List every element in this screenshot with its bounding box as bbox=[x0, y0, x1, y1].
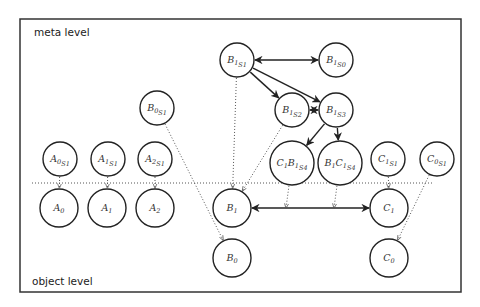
node-A1: A1 bbox=[88, 189, 126, 227]
node-B1S1: B1S1 bbox=[220, 43, 254, 77]
node-C0S1: C0S1 bbox=[420, 142, 454, 176]
node-A0: A0 bbox=[40, 189, 78, 227]
meta-level-label: meta level bbox=[34, 26, 90, 38]
node-A2: A2 bbox=[136, 189, 174, 227]
node-C1: C1 bbox=[370, 189, 408, 227]
nodes: B1S1B1S0B1S2B1S3C1B1S4B1C1S4B0S1A0S1A1S1… bbox=[40, 43, 454, 277]
edge-B0S1-B0 bbox=[165, 124, 223, 240]
edge-C1B1S4-B1C1edge_a bbox=[286, 186, 289, 208]
node-B0S1: B0S1 bbox=[140, 91, 174, 125]
node-C1B1S4: C1B1S4 bbox=[270, 141, 314, 185]
node-A1S1: A1S1 bbox=[91, 142, 125, 176]
edge-B1S1-B1S2 bbox=[250, 72, 278, 98]
node-B1S0: B1S0 bbox=[319, 43, 353, 77]
node-B1S3: B1S3 bbox=[319, 93, 353, 127]
node-B1C1S4: B1C1S4 bbox=[318, 141, 362, 185]
node-B0: B0 bbox=[213, 239, 251, 277]
node-B1: B1 bbox=[213, 189, 251, 227]
edge-B1C1S4-B1C1edge_b bbox=[334, 186, 337, 208]
node-C1S1: C1S1 bbox=[371, 142, 405, 176]
node-B1S2: B1S2 bbox=[275, 93, 309, 127]
edge-B1S3-B1C1S4 bbox=[337, 128, 338, 140]
node-A0S1: A0S1 bbox=[43, 142, 77, 176]
edge-B1S1-B1 bbox=[233, 78, 237, 188]
object-level-label: object level bbox=[32, 275, 93, 287]
node-A2S1: A2S1 bbox=[138, 142, 172, 176]
diagram-canvas: meta level object level B1S1B1S0B1S2B1S3… bbox=[0, 0, 480, 307]
edge-B1S3-C1B1S4 bbox=[307, 124, 325, 145]
node-C0: C0 bbox=[370, 239, 408, 277]
